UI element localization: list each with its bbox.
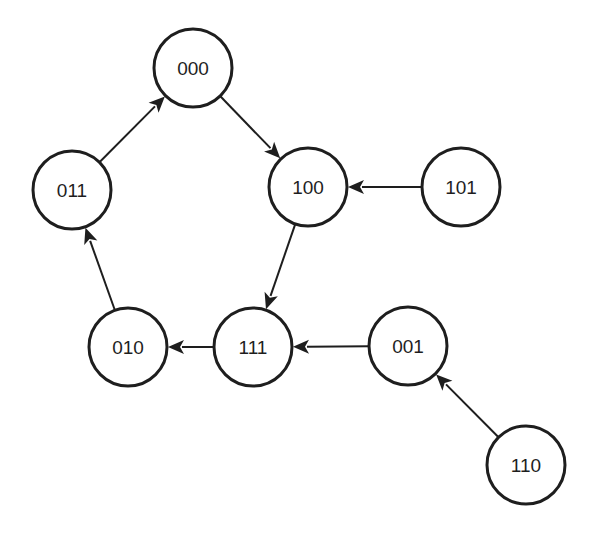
edge-line: [99, 106, 155, 162]
edge-001-to-111: [293, 340, 369, 354]
edge-line: [446, 384, 499, 437]
node-label: 100: [292, 177, 324, 198]
edge-011-to-000: [99, 96, 164, 162]
node-001: 001: [369, 307, 447, 385]
edge-line: [271, 224, 296, 296]
arrowhead-icon: [168, 340, 184, 354]
nodes-layer: 000011100101010111001110: [33, 29, 565, 504]
node-label: 010: [112, 337, 144, 358]
node-110: 110: [487, 426, 565, 504]
node-label: 011: [57, 180, 87, 201]
edge-111-to-010: [168, 340, 214, 354]
edge-010-to-011: [84, 228, 115, 311]
node-label: 111: [239, 337, 268, 358]
arrowhead-icon: [293, 340, 309, 354]
node-111: 111: [214, 308, 292, 386]
node-label: 101: [445, 177, 477, 198]
node-011: 011: [33, 151, 111, 229]
edge-line: [220, 96, 270, 148]
node-100: 100: [269, 148, 347, 226]
node-010: 010: [89, 308, 167, 386]
arrowhead-icon: [348, 180, 364, 194]
edge-101-to-100: [348, 180, 422, 194]
state-diagram: 000011100101010111001110: [0, 0, 596, 535]
node-label: 000: [177, 58, 209, 79]
edge-100-to-111: [265, 224, 296, 309]
edge-110-to-001: [436, 374, 498, 437]
node-label: 001: [392, 336, 424, 357]
node-101: 101: [422, 148, 500, 226]
edge-line: [90, 241, 115, 310]
node-label: 110: [511, 455, 541, 476]
edge-000-to-100: [220, 96, 280, 158]
edges-layer: [84, 96, 498, 437]
node-000: 000: [154, 29, 232, 107]
